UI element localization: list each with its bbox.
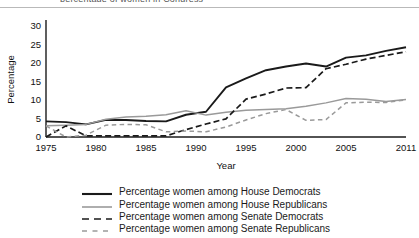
y-tick-label: 0: [36, 131, 41, 142]
figure-container: percentage of women in Congress 05101520…: [0, 0, 419, 238]
legend-label-senate-democrats: Percentage women among Senate Democrats: [119, 211, 323, 223]
line-chart-plot: 0510152025301975198019851990199520002005…: [0, 0, 419, 180]
y-tick-label: 30: [30, 20, 41, 31]
x-axis-title: Year: [216, 160, 235, 171]
x-tick-label: 1995: [235, 142, 256, 153]
legend-item: Percentage women among Senate Republican…: [82, 223, 402, 235]
x-tick-label: 2011: [396, 142, 416, 153]
legend-item: Percentage women among House Democrats: [82, 186, 402, 198]
x-tick-label: 2000: [285, 142, 306, 153]
y-tick-label: 15: [30, 76, 41, 87]
legend-label-house-republicans: Percentage women among House Republicans: [119, 199, 327, 211]
y-axis-title: Percentage: [5, 55, 16, 104]
legend-label-house-democrats: Percentage women among House Democrats: [119, 186, 321, 198]
chart-legend: Percentage women among House Democrats P…: [82, 186, 402, 236]
series-line-senate-democrats: [46, 52, 406, 137]
y-tick-label: 5: [36, 113, 41, 124]
legend-swatch-senate-republicans: [82, 223, 112, 235]
y-tick-label: 10: [30, 94, 41, 105]
legend-label-senate-republicans: Percentage women among Senate Republican…: [119, 223, 330, 235]
x-tick-label: 1975: [35, 142, 56, 153]
legend-item: Percentage women among House Republicans: [82, 198, 402, 210]
x-tick-label: 1980: [85, 142, 106, 153]
x-tick-label: 1985: [135, 142, 156, 153]
x-tick-label: 1990: [185, 142, 206, 153]
y-tick-label: 25: [30, 39, 41, 50]
x-tick-label: 2005: [335, 142, 356, 153]
legend-item: Percentage women among Senate Democrats: [82, 211, 402, 223]
y-tick-label: 20: [30, 57, 41, 68]
